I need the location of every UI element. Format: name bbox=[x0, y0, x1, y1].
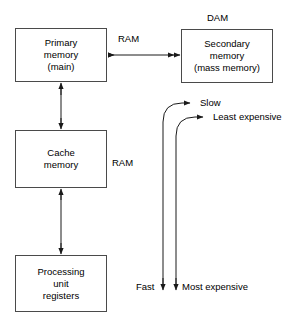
label-slow: Slow bbox=[200, 97, 221, 108]
box-primary-memory-line-3: (main) bbox=[48, 61, 75, 73]
box-secondary-memory: Secondary memory (mass memory) bbox=[181, 29, 273, 83]
box-primary-memory-line-1: Primary bbox=[45, 37, 78, 49]
box-secondary-memory-line-2: memory bbox=[210, 50, 244, 62]
box-processing-unit-registers-line-3: registers bbox=[43, 290, 79, 302]
label-least-expensive: Least expensive bbox=[213, 111, 282, 122]
box-primary-memory-line-2: memory bbox=[44, 49, 78, 61]
label-fast: Fast bbox=[136, 281, 154, 292]
box-processing-unit-registers-line-1: Processing bbox=[38, 266, 85, 278]
box-processing-unit-registers-line-2: unit bbox=[53, 278, 68, 290]
box-cache-memory: Cache memory bbox=[15, 130, 107, 188]
box-cache-memory-line-1: Cache bbox=[47, 147, 74, 159]
label-most-expensive: Most expensive bbox=[182, 281, 248, 292]
box-cache-memory-line-2: memory bbox=[44, 159, 78, 171]
box-secondary-memory-line-3: (mass memory) bbox=[194, 62, 260, 74]
label-ram-cache: RAM bbox=[112, 157, 133, 168]
label-dam: DAM bbox=[207, 12, 228, 23]
connector-cost-axis bbox=[176, 117, 203, 290]
box-secondary-memory-line-1: Secondary bbox=[204, 38, 249, 50]
memory-hierarchy-diagram: Primary memory (main) Secondary memory (… bbox=[0, 0, 301, 326]
label-ram-primary-secondary: RAM bbox=[118, 33, 139, 44]
box-primary-memory: Primary memory (main) bbox=[15, 28, 107, 82]
box-processing-unit-registers: Processing unit registers bbox=[15, 255, 107, 312]
